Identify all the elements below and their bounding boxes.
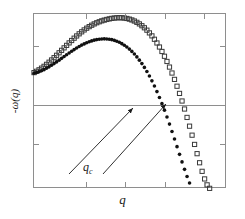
x-tick-bottom-1 <box>125 182 126 187</box>
x-tick-top-1 <box>125 14 126 19</box>
data-marker <box>197 161 201 165</box>
data-marker <box>163 108 167 112</box>
plot-frame <box>33 13 226 188</box>
x-tick-top-2 <box>165 14 166 19</box>
data-marker <box>165 59 169 63</box>
data-layer <box>34 14 227 189</box>
data-marker <box>160 102 164 106</box>
x-tick-bottom-2 <box>165 182 166 187</box>
data-marker <box>138 58 142 62</box>
data-marker <box>140 62 144 66</box>
y-tick-left-0 <box>34 46 39 47</box>
x-tick-top-0 <box>86 14 87 19</box>
data-marker <box>167 65 171 69</box>
data-marker <box>173 137 177 141</box>
qc-subscript: c <box>89 167 93 176</box>
data-marker <box>145 70 149 74</box>
x-tick-top-3 <box>204 14 205 19</box>
data-marker <box>133 52 137 56</box>
data-marker <box>153 84 157 88</box>
data-marker <box>182 107 186 111</box>
data-marker <box>185 175 189 179</box>
data-marker <box>180 160 184 164</box>
data-marker <box>188 181 192 185</box>
x-tick-bottom-3 <box>204 182 205 187</box>
data-marker <box>165 115 169 119</box>
data-marker <box>203 177 207 181</box>
qc-annotation-label: qc <box>83 160 93 176</box>
data-marker <box>158 96 162 100</box>
data-marker <box>135 55 139 59</box>
data-marker <box>190 133 194 137</box>
x-axis-label: q <box>0 192 245 208</box>
data-marker <box>175 84 179 88</box>
data-marker <box>175 145 179 149</box>
data-marker <box>183 168 187 172</box>
figure-panel: -ω(q) qc q <box>0 0 245 219</box>
data-marker <box>162 54 166 58</box>
data-marker <box>178 153 182 157</box>
data-marker <box>170 71 174 75</box>
data-marker <box>195 152 199 156</box>
data-marker <box>192 142 196 146</box>
data-marker <box>172 77 176 81</box>
y-tick-left-1 <box>34 144 39 145</box>
x-tick-bottom-0 <box>86 182 87 187</box>
data-marker <box>155 90 159 94</box>
data-marker <box>187 124 191 128</box>
data-marker <box>168 122 172 126</box>
data-marker <box>148 74 152 78</box>
data-marker <box>160 49 164 53</box>
data-marker <box>185 115 189 119</box>
data-marker <box>170 130 174 134</box>
data-marker <box>180 99 184 103</box>
data-marker <box>143 66 147 70</box>
data-marker <box>200 169 204 173</box>
data-marker <box>130 50 134 54</box>
y-axis-label: -ω(q) <box>8 78 20 124</box>
data-marker <box>150 79 154 83</box>
data-marker <box>177 91 181 95</box>
y-tick-right-1 <box>220 144 225 145</box>
y-tick-right-0 <box>220 46 225 47</box>
